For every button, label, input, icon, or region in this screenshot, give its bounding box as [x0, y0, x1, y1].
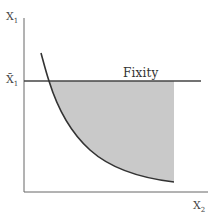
y-axis-label: X1	[6, 10, 18, 25]
xbar1-label: X̄1	[6, 73, 18, 88]
shaded-region	[49, 81, 174, 182]
fixity-label: Fixity	[123, 66, 159, 80]
diagram-canvas	[0, 0, 220, 214]
x-axis-label: X2	[193, 199, 205, 214]
